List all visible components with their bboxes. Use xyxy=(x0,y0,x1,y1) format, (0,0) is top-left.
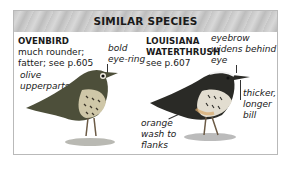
ovenbird-illustration xyxy=(20,60,130,150)
annotation-eyebrow-line-1: eyebrow xyxy=(211,33,250,44)
annotation-eyebrow-line-3: eye xyxy=(211,55,227,66)
louisiana-waterthrush-illustration xyxy=(148,65,253,145)
species-name-ovenbird: OVENBIRD xyxy=(18,36,69,47)
species-name-louisiana-line-1: LOUISIANA xyxy=(146,36,199,47)
ovenbird-description-line-1: much rounder; xyxy=(18,47,84,58)
species-name-louisiana-line-2: WATERTHRUSH xyxy=(146,47,220,58)
annotation-eyebrow-line-2: widens behind xyxy=(211,44,276,55)
annotation-bold-eye-ring-line-1: bold xyxy=(108,43,127,54)
panel-title: SIMILAR SPECIES xyxy=(14,11,277,32)
